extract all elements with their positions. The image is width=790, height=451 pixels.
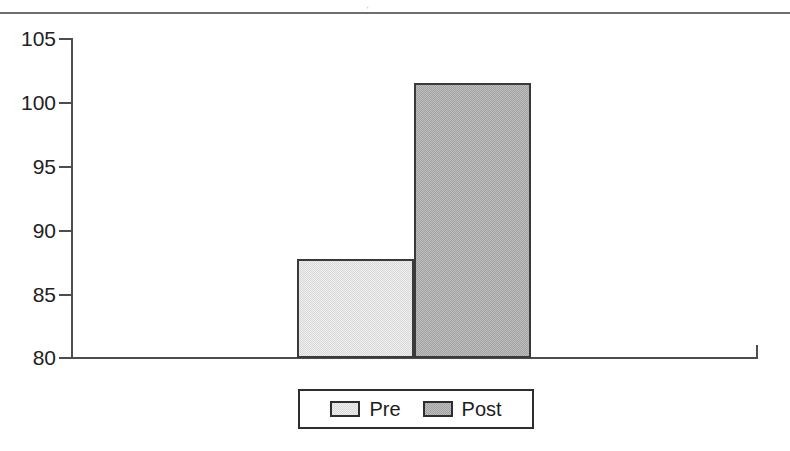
y-tick-label-80: 80 <box>0 347 56 368</box>
y-tick-label-100: 100 <box>0 92 56 113</box>
y-tick-mark-90 <box>59 230 72 232</box>
y-tick-label-85: 85 <box>0 284 56 305</box>
legend-entry-pre: Pre <box>330 399 400 419</box>
y-axis-line <box>71 38 73 359</box>
legend-swatch-post-icon <box>423 401 453 417</box>
bar-pre <box>297 259 414 358</box>
bar-chart-figure: , 105 100 95 90 85 80 Pre Post <box>0 0 790 451</box>
legend-swatch-pre-icon <box>330 401 360 417</box>
y-tick-mark-105 <box>59 38 72 40</box>
y-tick-mark-80 <box>59 357 72 359</box>
legend-entry-post: Post <box>423 399 502 419</box>
y-tick-label-95: 95 <box>0 156 56 177</box>
y-tick-mark-100 <box>59 102 72 104</box>
plot-area: 105 100 95 90 85 80 <box>0 0 790 451</box>
y-tick-mark-95 <box>59 166 72 168</box>
y-tick-mark-85 <box>59 294 72 296</box>
y-tick-label-105: 105 <box>0 28 56 49</box>
x-axis-end-tick <box>756 345 758 359</box>
legend-label-post: Post <box>462 399 502 419</box>
bar-post <box>414 83 531 358</box>
legend-label-pre: Pre <box>369 399 400 419</box>
chart-legend: Pre Post <box>298 389 534 429</box>
y-tick-label-90: 90 <box>0 220 56 241</box>
